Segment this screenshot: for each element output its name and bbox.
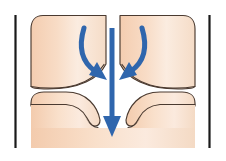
anatomy-diagram — [0, 0, 226, 161]
figure-root — [0, 0, 226, 161]
